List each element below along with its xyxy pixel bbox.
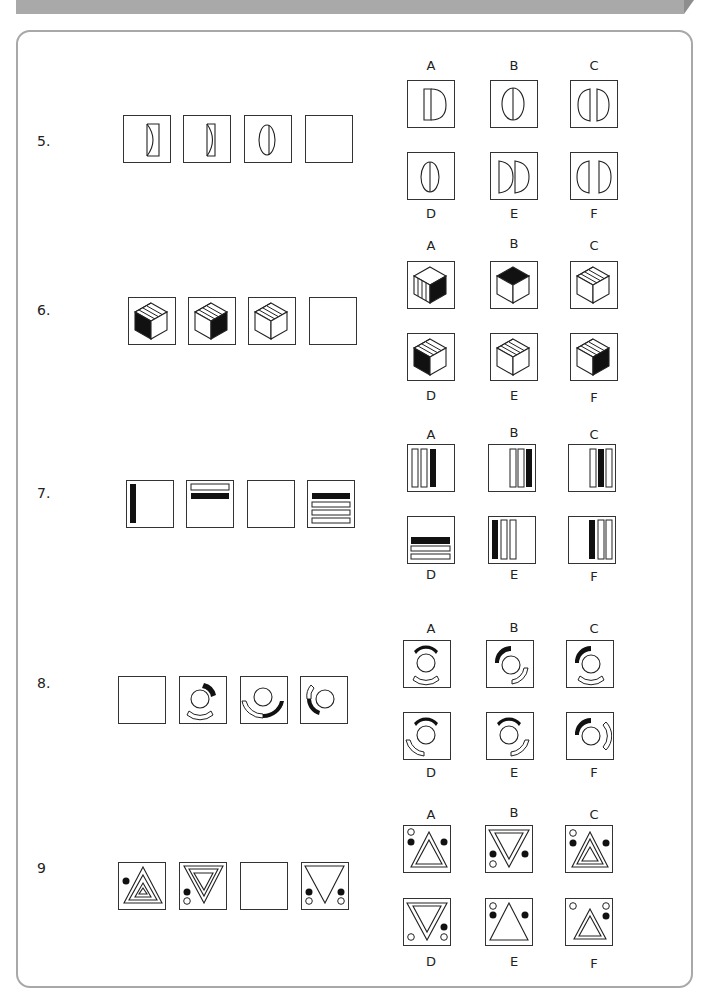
sequence-cell-cube-black-left [128, 297, 176, 345]
option-e[interactable] [486, 712, 534, 760]
option-label: E [504, 954, 524, 969]
option-c[interactable] [568, 444, 616, 492]
sequence-cell-cube-white [248, 297, 296, 345]
option-label: F [584, 765, 604, 780]
sequence-cell-bars-4 [307, 480, 355, 528]
option-label: C [584, 238, 604, 253]
option-label: A [421, 807, 441, 822]
option-label: D [421, 388, 441, 403]
option-label: D [421, 206, 441, 221]
sequence-cell-split-lens-a [123, 115, 171, 163]
option-b[interactable] [490, 80, 538, 128]
sequence-cell-ring-3 [300, 676, 348, 724]
option-label: D [421, 954, 441, 969]
option-b[interactable] [486, 640, 534, 688]
question-number: 8. [37, 675, 50, 691]
option-label: F [584, 390, 604, 405]
question-number: 7. [37, 485, 50, 501]
sequence-cell-ring-1 [179, 676, 227, 724]
option-label: C [584, 807, 604, 822]
answer-blank-cell[interactable] [309, 297, 357, 345]
answer-blank-cell[interactable] [305, 115, 353, 163]
option-d[interactable] [407, 152, 455, 200]
option-d[interactable] [407, 333, 455, 381]
option-label: A [421, 427, 441, 442]
option-a[interactable] [407, 444, 455, 492]
option-label: E [504, 765, 524, 780]
option-label: B [504, 805, 524, 820]
sequence-cell-ring-2 [240, 676, 288, 724]
option-c[interactable] [566, 640, 614, 688]
option-label: C [584, 621, 604, 636]
option-e[interactable] [490, 152, 538, 200]
option-label: A [421, 621, 441, 636]
header-bar-corner [684, 0, 694, 14]
option-label: D [421, 765, 441, 780]
question-number: 5. [37, 133, 50, 149]
option-label: E [504, 206, 524, 221]
answer-blank-cell[interactable] [118, 676, 166, 724]
option-c[interactable] [565, 825, 613, 873]
sequence-cell-bars-2 [186, 480, 234, 528]
option-b[interactable] [488, 444, 536, 492]
sequence-cell-tri-2 [179, 862, 227, 910]
option-d[interactable] [407, 516, 455, 564]
option-a[interactable] [407, 261, 455, 309]
option-label: A [421, 58, 441, 73]
sequence-cell-tri-4 [301, 862, 349, 910]
question-number: 6. [37, 302, 50, 318]
option-e[interactable] [485, 898, 533, 946]
option-b[interactable] [485, 825, 533, 873]
sequence-cell-cube-black-right [188, 297, 236, 345]
option-f[interactable] [570, 333, 618, 381]
option-label: B [504, 236, 524, 251]
option-d[interactable] [403, 898, 451, 946]
option-d[interactable] [403, 712, 451, 760]
option-f[interactable] [566, 712, 614, 760]
sequence-cell-split-lens-b [183, 115, 231, 163]
sequence-cell-tri-1 [118, 862, 166, 910]
option-label: D [421, 567, 441, 582]
option-c[interactable] [570, 80, 618, 128]
answer-blank-cell[interactable] [240, 862, 288, 910]
option-label: C [584, 58, 604, 73]
option-label: F [584, 569, 604, 584]
question-number: 9 [37, 860, 46, 876]
option-label: B [504, 620, 524, 635]
option-label: F [584, 956, 604, 971]
option-f[interactable] [568, 516, 616, 564]
option-label: B [504, 58, 524, 73]
option-label: E [504, 388, 524, 403]
option-f[interactable] [570, 152, 618, 200]
option-c[interactable] [570, 261, 618, 309]
header-bar [16, 0, 684, 14]
sequence-cell-split-lens-c [244, 115, 292, 163]
option-a[interactable] [403, 640, 451, 688]
option-f[interactable] [565, 898, 613, 946]
sequence-cell-bars-1 [126, 480, 174, 528]
option-label: E [504, 567, 524, 582]
option-label: A [421, 238, 441, 253]
option-a[interactable] [403, 825, 451, 873]
option-a[interactable] [407, 80, 455, 128]
option-label: B [504, 425, 524, 440]
option-e[interactable] [490, 333, 538, 381]
option-label: F [584, 206, 604, 221]
option-b[interactable] [490, 261, 538, 309]
option-label: C [584, 427, 604, 442]
option-e[interactable] [488, 516, 536, 564]
answer-blank-cell[interactable] [247, 480, 295, 528]
